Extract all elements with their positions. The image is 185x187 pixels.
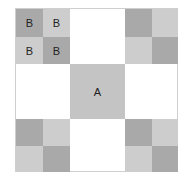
cell-br-3 xyxy=(125,146,152,172)
cell-tl-4: B xyxy=(43,37,70,64)
cell-tl-1: B xyxy=(16,9,43,37)
grid-board: B B B B A xyxy=(15,8,178,172)
cell-br-1 xyxy=(125,119,152,146)
cell-bl-1 xyxy=(16,119,43,146)
cell-bl-2 xyxy=(43,119,70,146)
label-b: B xyxy=(53,45,60,57)
cell-br-4 xyxy=(152,146,178,172)
cell-br-2 xyxy=(152,119,178,146)
cell-tr-1 xyxy=(125,9,152,37)
cell-tl-2: B xyxy=(43,9,70,37)
cell-tr-4 xyxy=(152,37,178,64)
cell-tl-3: B xyxy=(16,37,43,64)
label-b: B xyxy=(26,17,33,29)
cell-tr-2 xyxy=(152,9,178,37)
cell-bl-4 xyxy=(43,146,70,172)
cell-center: A xyxy=(70,64,125,119)
label-b: B xyxy=(53,17,60,29)
cell-tr-3 xyxy=(125,37,152,64)
label-a: A xyxy=(94,86,101,98)
label-b: B xyxy=(26,45,33,57)
cell-bl-3 xyxy=(16,146,43,172)
